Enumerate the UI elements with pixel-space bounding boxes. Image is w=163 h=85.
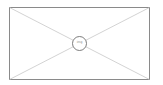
placeholder-label: img [74,40,85,45]
image-placeholder: img [0,0,163,85]
